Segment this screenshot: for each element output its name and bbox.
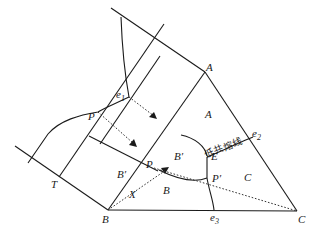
ternary-phase-diagram: A B C A B′ B′ B C e1 e2 e3 E P P P′ T X … [0,0,315,233]
projection-line-t [59,24,164,177]
label-e3: e3 [210,211,219,226]
projection-line-inner [100,56,160,144]
label-region-a: A [204,108,212,120]
label-point-t: T [51,178,58,190]
dotted-arrow-e1 [129,97,154,116]
edge-a-c [205,72,297,211]
arrowhead-e1-icon [149,112,157,119]
label-point-p-inner: P [145,158,153,170]
curve-e1-p-left [28,97,129,163]
arrowhead-p-icon [129,139,137,147]
dotted-line-p-c [154,168,297,211]
left-boundary-line [15,146,108,210]
diagram-canvas: A B C A B′ B′ B C e1 e2 e3 E P P P′ T X … [0,0,315,233]
top-boundary-line [111,8,205,72]
label-vertex-c: C [298,213,306,225]
label-e2: e2 [252,127,261,142]
label-vertex-b: B [102,213,109,225]
label-vertex-a: A [205,61,213,73]
edge-b-c [108,210,297,211]
label-region-c: C [244,171,252,183]
label-point-p-prime: P′ [211,172,222,184]
label-point-x: X [128,188,137,200]
label-e1: e1 [116,88,125,103]
label-point-p-left: P [87,110,95,122]
label-region-bprime-upper: B′ [174,150,184,162]
label-region-bprime-left: B′ [117,168,127,180]
label-eutectic-line: 低共熔线 [203,135,244,160]
edge-b-a [108,72,205,210]
label-region-b: B [163,184,170,196]
